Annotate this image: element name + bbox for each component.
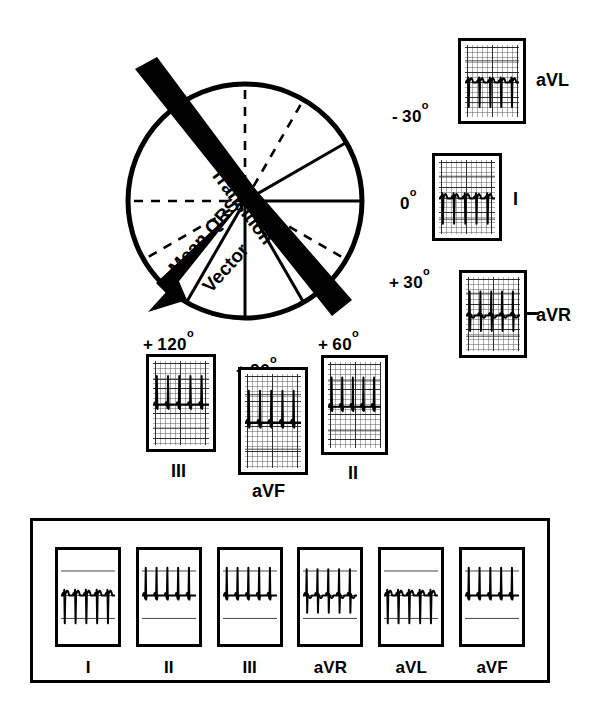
ecg-trace xyxy=(466,292,520,332)
ecg-graph-paper xyxy=(142,553,196,639)
ecg-trace xyxy=(153,376,209,409)
degree-label-zero: 0o xyxy=(400,193,417,212)
degree-label-text: 60 xyxy=(332,335,352,354)
degree-label-plus-120: +120o xyxy=(143,334,194,353)
degree-label-unit: o xyxy=(410,186,417,198)
ecg-graph-paper xyxy=(61,553,115,639)
panel-ecg-label-panel-avr: aVR xyxy=(297,659,363,676)
panel-ecg-label-panel-lead-ii: II xyxy=(136,659,202,676)
ecg-strip-label-avf: aVF xyxy=(252,482,285,500)
ecg-strip-lead-i xyxy=(432,153,502,241)
panel-ecg-label-panel-avl: aVL xyxy=(378,659,444,676)
ecg-strip-label-lead-ii: II xyxy=(348,464,358,482)
degree-label-minus-30: -30o xyxy=(392,106,429,125)
panel-ecg-label-panel-lead-iii: III xyxy=(217,659,283,676)
degree-label-plus-60: +60o xyxy=(318,334,359,353)
panel-ecg-label-panel-avf: aVF xyxy=(459,659,525,676)
axis-minus-30-deg xyxy=(245,143,346,202)
degree-label-unit: o xyxy=(423,265,430,277)
ecg-graph-paper xyxy=(466,277,520,351)
degree-label-sign: - xyxy=(392,107,398,126)
degree-label-sign: + xyxy=(389,273,399,292)
degree-label-unit: o xyxy=(352,327,359,339)
panel-ecg-strip-panel-avf xyxy=(459,547,525,647)
ecg-trace xyxy=(142,568,196,600)
ecg-trace xyxy=(465,568,519,600)
panel-ecg-strip-panel-lead-iii xyxy=(217,547,283,647)
panel-ecg-strip-panel-lead-ii xyxy=(136,547,202,647)
ecg-strip-label-avl: aVL xyxy=(536,71,569,89)
degree-label-unit: o xyxy=(270,353,277,365)
ecg-strip-avr xyxy=(459,270,527,358)
panel-ecg-strip-panel-avr xyxy=(297,547,363,647)
degree-label-sign: + xyxy=(318,335,328,354)
ecg-trace xyxy=(223,568,277,600)
ecg-strip-label-avr: aVR xyxy=(536,306,571,324)
degree-label-text: 30 xyxy=(403,273,423,292)
degree-label-plus-30: +30o xyxy=(389,272,430,291)
degree-label-sign: + xyxy=(143,335,153,354)
degree-label-text: 30 xyxy=(402,107,422,126)
ecg-axis-figure: Transition Mean QRS Vector -30o0o+30o+60… xyxy=(0,0,600,716)
ecg-graph-paper xyxy=(245,374,301,468)
panel-ecg-label-panel-lead-i: I xyxy=(55,659,121,676)
degree-label-text: 120 xyxy=(157,335,187,354)
twelve-lead-panel: IIIIIIaVRaVLaVF xyxy=(30,518,550,683)
ecg-strip-avf xyxy=(238,367,308,475)
ecg-trace xyxy=(303,569,357,613)
degree-label-unit: o xyxy=(187,327,194,339)
ecg-graph-paper xyxy=(384,553,438,639)
degree-label-unit: o xyxy=(422,99,429,111)
ecg-trace xyxy=(245,391,301,428)
avr-leader-line xyxy=(527,312,539,315)
panel-ecg-strip-panel-lead-i xyxy=(55,547,121,647)
ecg-graph-paper xyxy=(439,160,495,234)
ecg-strip-avl xyxy=(458,38,526,124)
ecg-graph-paper xyxy=(465,553,519,639)
panel-ecg-strip-panel-avl xyxy=(378,547,444,647)
degree-label-text: 0 xyxy=(400,194,410,213)
ecg-strip-label-lead-i: I xyxy=(513,190,518,208)
ecg-graph-paper xyxy=(465,45,519,117)
ecg-graph-paper xyxy=(328,362,381,448)
ecg-graph-paper xyxy=(303,553,357,639)
ecg-strip-lead-ii xyxy=(321,355,388,455)
ecg-graph-paper xyxy=(153,361,209,445)
ecg-strip-label-lead-iii: III xyxy=(171,462,186,480)
ecg-trace xyxy=(328,377,381,411)
ecg-strip-lead-iii xyxy=(146,354,216,452)
ecg-graph-paper xyxy=(223,553,277,639)
